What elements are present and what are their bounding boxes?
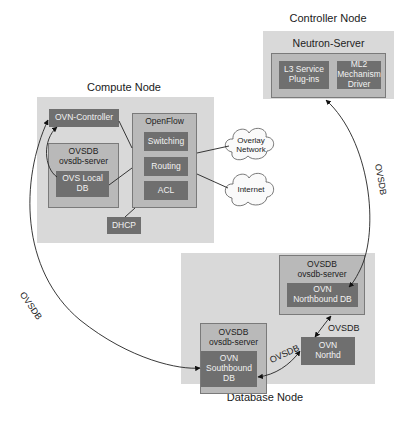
internet-label: Internet bbox=[228, 178, 274, 202]
overlay-line2: Network bbox=[236, 145, 265, 154]
edge-label-northd-northbound: OVSDB bbox=[328, 323, 360, 333]
overlay-line1: Overlay bbox=[237, 136, 265, 145]
connectors-layer bbox=[0, 0, 404, 423]
overlay-network-label: Overlay Network bbox=[228, 132, 274, 158]
internet-line1: Internet bbox=[237, 185, 264, 194]
